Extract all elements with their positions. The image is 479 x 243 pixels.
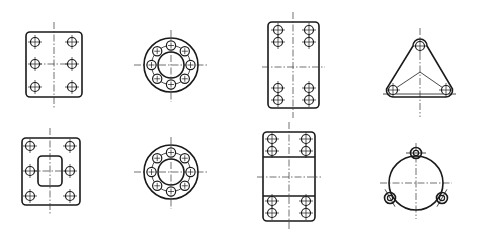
ring-flange-8-holes-b [134,137,208,209]
bolt-hole [28,57,42,71]
bolt-hole [180,181,189,190]
bolt-hole [271,35,285,49]
bolt-hole [186,60,195,69]
bolt-hole [302,23,316,37]
bolt-hole [180,154,189,163]
bolt-hole [271,81,285,95]
bolt-hole [166,41,175,50]
bolt-hole [166,148,175,157]
bolt-hole [302,93,316,107]
triangular-flange-3-holes [383,28,456,117]
bolt-hole [23,189,37,203]
bolt-hole [166,80,175,89]
rect-plate-6-holes [26,22,82,108]
rect-plate-8-holes [262,12,325,118]
bolt-hole [186,167,195,176]
bolt-hole [180,74,189,83]
bolt-hole [23,139,37,153]
bolt-hole [65,80,79,94]
bolt-hole [265,132,279,146]
bolt-hole [166,187,175,196]
bolt-hole [265,144,279,158]
bolt-hole [65,35,79,49]
bolt-hole [28,80,42,94]
bolt-hole [299,132,313,146]
bolt-hole [147,60,156,69]
bolt-hole [302,81,316,95]
bolt-hole [63,189,77,203]
split-block-8-holes [257,122,321,231]
bolt-hole [63,139,77,153]
bolt-hole [23,164,37,178]
drawing-canvas [0,0,479,243]
bolt-hole [63,164,77,178]
bolt-hole [153,74,162,83]
plate-with-window-6-holes [22,128,80,215]
bolt-hole [153,47,162,56]
bolt-hole [153,181,162,190]
bolt-hole [271,23,285,37]
bolt-hole [153,154,162,163]
bolt-hole [302,35,316,49]
plate-outline [268,22,319,108]
bolt-hole [271,93,285,107]
bolt-hole [265,206,279,220]
bolt-hole [147,167,156,176]
round-flange-3-lugs [380,143,452,219]
bolt-hole [180,47,189,56]
bolt-hole [65,57,79,71]
bolt-hole [299,206,313,220]
ring-flange-8-holes [134,30,208,102]
bolt-hole [299,144,313,158]
bolt-hole [28,35,42,49]
